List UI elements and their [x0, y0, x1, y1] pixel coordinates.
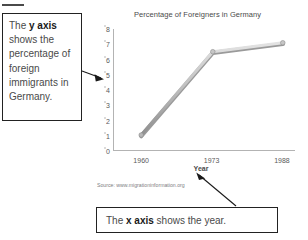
y-callout-prefix: The: [9, 20, 29, 31]
x-callout-emphasis: x axis: [126, 215, 154, 226]
x-callout-text: The x axis shows the year.: [106, 215, 226, 226]
y-callout-emphasis: y axis: [29, 20, 57, 31]
y-callout-suffix: shows the percentage of foreign immigran…: [9, 34, 70, 102]
y-axis-callout-box: The y axis shows the percentage of forei…: [2, 13, 82, 121]
top-rule-mark: [2, 4, 24, 6]
chart-panel: Percentage of Foreigners in Germany 8 7 …: [95, 8, 300, 193]
source-note: Source: www.migrationinformation.org: [97, 182, 185, 188]
x-callout-suffix: shows the year.: [154, 215, 226, 226]
x-callout-prefix: The: [106, 215, 126, 226]
x-axis-title: Year: [113, 165, 289, 172]
x-axis-callout-box: The x axis shows the year.: [96, 207, 278, 233]
cropped-top-text: [0, 0, 308, 7]
